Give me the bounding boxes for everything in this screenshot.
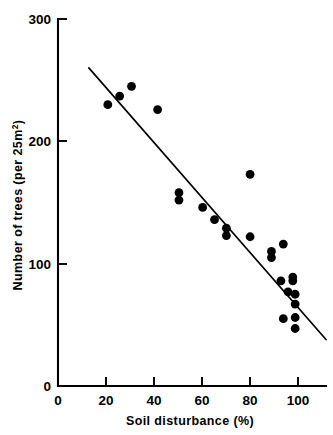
data-point [246,170,255,179]
data-point [115,92,124,101]
data-point [198,203,207,212]
regression-line [89,68,326,340]
data-point [291,300,300,309]
data-point [103,100,112,109]
x-tick-label-100: 100 [287,393,310,408]
x-tick-label-80: 80 [242,393,257,408]
data-point [291,324,300,333]
data-point [222,231,231,240]
data-point [246,232,255,241]
data-point [153,105,162,114]
data-point [291,290,300,299]
y-axis-title-group: Number of trees (per 25m2) [10,120,25,291]
y-tick-label-100: 100 [28,257,51,272]
y-axis-title-main: Number of trees (per 25m [11,129,25,290]
y-tick-marks [58,19,67,264]
data-point [210,215,219,224]
x-tick-label-40: 40 [146,393,161,408]
y-axis-title-tail: ) [11,120,25,125]
data-point [175,196,184,205]
x-tick-marks [106,377,298,386]
scatter-plot: 300 200 100 0 0 20 40 60 80 100 Soil dis… [0,0,333,435]
y-tick-label-300: 300 [28,12,51,27]
chart-figure: 300 200 100 0 0 20 40 60 80 100 Soil dis… [0,0,333,435]
x-tick-label-20: 20 [98,393,113,408]
data-point [279,314,288,323]
axes-group [58,19,326,386]
data-point [127,82,136,91]
y-axis-title: Number of trees (per 25m2) [10,120,25,291]
x-tick-label-0: 0 [54,393,62,408]
data-point [277,276,286,285]
data-point [291,313,300,322]
data-point [267,253,276,262]
data-point [288,276,297,285]
y-tick-label-200: 200 [28,134,51,149]
x-tick-label-60: 60 [194,393,209,408]
data-point [279,240,288,249]
y-tick-label-0: 0 [43,379,51,394]
x-axis-title: Soil disturbance (%) [126,414,254,428]
